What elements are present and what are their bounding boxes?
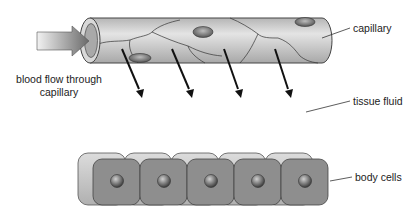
tissue-fluid-leader-line [306, 101, 350, 112]
label-blood-flow-line1: blood flow through [0, 73, 118, 85]
cell-nucleus [111, 175, 124, 188]
capillary-tube [80, 18, 332, 64]
label-body-cells: body cells [355, 171, 402, 183]
red-blood-cell [295, 18, 315, 27]
cell-nucleus [299, 175, 312, 188]
red-blood-cell [129, 54, 151, 63]
cell-nucleus [252, 175, 265, 188]
label-tissue-fluid: tissue fluid [353, 95, 403, 107]
label-blood-flow-line2: capillary [0, 86, 118, 98]
body-cells [78, 153, 328, 205]
red-blood-cell [193, 27, 213, 38]
label-capillary: capillary [353, 22, 392, 34]
body-cells-leader-line [330, 177, 352, 181]
cell-nucleus [205, 175, 218, 188]
cell-nucleus [158, 175, 171, 188]
